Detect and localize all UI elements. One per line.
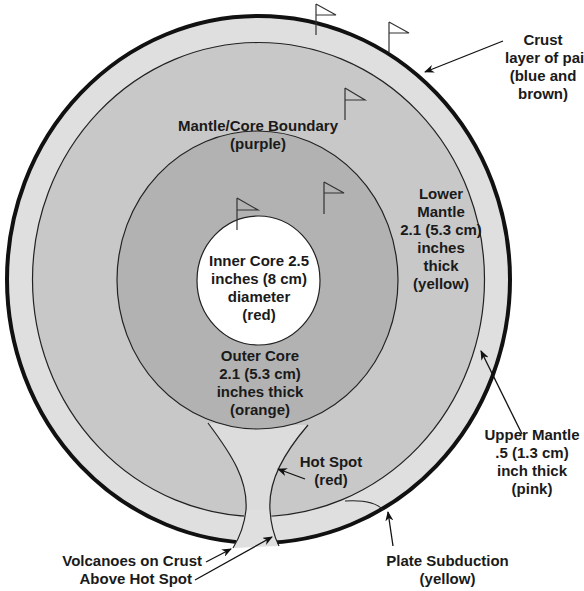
label-line: Crust — [505, 31, 581, 49]
flag-icon — [389, 22, 409, 52]
label-line: (yellow) — [396, 275, 486, 293]
label-line: inches (8 cm) — [198, 270, 320, 288]
label-line: (blue and — [505, 67, 581, 85]
label-line: inches — [396, 239, 486, 257]
lower-mantle-label: Lower Mantle 2.1 (5.3 cm) inches thick (… — [396, 185, 486, 293]
label-line: 2.1 (5.3 cm) — [205, 365, 315, 383]
label-line: Plate Subduction — [380, 552, 515, 570]
label-line: layer of paint — [505, 49, 581, 67]
label-line: (pink) — [482, 480, 582, 498]
label-line: diameter — [198, 288, 320, 306]
label-line: 2.1 (5.3 cm) — [396, 221, 486, 239]
plate-subduction-arrow — [388, 512, 393, 546]
upper-mantle-label: Upper Mantle .5 (1.3 cm) inch thick (pin… — [482, 426, 582, 498]
label-line: (yellow) — [380, 570, 515, 588]
outer-core-label: Outer Core 2.1 (5.3 cm) inches thick (or… — [205, 347, 315, 419]
label-line: Mantle — [396, 203, 486, 221]
volcano-arrow — [206, 549, 231, 562]
label-line: .5 (1.3 cm) — [482, 444, 582, 462]
label-line: (purple) — [175, 135, 341, 153]
label-line: Hot Spot — [296, 453, 366, 471]
label-line: Inner Core 2.5 — [198, 252, 320, 270]
label-line: Upper Mantle — [482, 426, 582, 444]
label-line: Lower — [396, 185, 486, 203]
label-line: Above Hot Spot — [40, 570, 192, 588]
label-line: (orange) — [205, 401, 315, 419]
mantle-core-boundary-label: Mantle/Core Boundary (purple) — [175, 117, 341, 153]
label-line: (red) — [296, 471, 366, 489]
crust-label: Crust layer of paint (blue and brown) — [505, 31, 581, 103]
volcanoes-label: Volcanoes on Crust Above Hot Spot — [40, 552, 202, 588]
label-line: brown) — [505, 85, 581, 103]
plate-subduction-label: Plate Subduction (yellow) — [380, 552, 515, 588]
crust-arrow — [425, 41, 503, 72]
hot-spot-label: Hot Spot (red) — [296, 453, 366, 489]
label-line: thick — [396, 257, 486, 275]
label-line: Mantle/Core Boundary — [175, 117, 341, 135]
label-line: Volcanoes on Crust — [40, 552, 202, 570]
label-line: inch thick — [482, 462, 582, 480]
label-line: inches thick — [205, 383, 315, 401]
label-line: Outer Core — [205, 347, 315, 365]
inner-core-label: Inner Core 2.5 inches (8 cm) diameter (r… — [198, 252, 320, 324]
label-line: (red) — [198, 306, 320, 324]
